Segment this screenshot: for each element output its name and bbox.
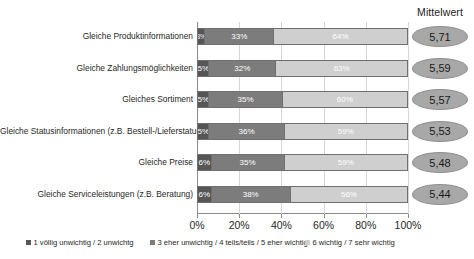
mean-value-cell: 5,57 — [412, 89, 468, 110]
stacked-bar: 3%33%64% — [197, 28, 408, 45]
x-tick-label: 40% — [259, 219, 303, 231]
mean-value-badge: 5,57 — [412, 89, 468, 110]
bar-segment-series-3: 64% — [273, 29, 407, 44]
bar-row[interactable]: 5%35%60% — [197, 91, 408, 108]
stacked-bar-chart: Mittelwert Gleiche Produktinformationen3… — [0, 0, 474, 259]
mean-value-badge: 5,48 — [412, 152, 468, 173]
bar-row[interactable]: 6%35%59% — [197, 154, 408, 171]
legend-item-3[interactable]: 6 wichtig / 7 sehr wichtig — [305, 238, 395, 247]
x-tick-label: 60% — [302, 219, 346, 231]
mean-value-badge: 5,53 — [412, 121, 468, 142]
bar-segment-series-3: 63% — [275, 61, 407, 76]
category-label: Gleiches Sortiment — [0, 91, 193, 108]
category-label: Gleiche Statusinformationen (z.B. Bestel… — [0, 123, 193, 140]
stacked-bar: 5%35%60% — [197, 91, 408, 108]
legend-item-1[interactable]: 1 völlig unwichtig / 2 unwichtg — [26, 238, 134, 247]
bar-segment-series-2: 33% — [204, 29, 273, 44]
gridline-100 — [408, 22, 409, 214]
tick-0 — [197, 214, 198, 218]
bar-segment-series-1: 5% — [198, 61, 208, 76]
bar-segment-series-2: 35% — [211, 155, 284, 170]
legend-label-3: 6 wichtig / 7 sehr wichtig — [313, 238, 395, 247]
bar-segment-series-1: 5% — [198, 92, 208, 107]
stacked-bar: 6%38%56% — [197, 186, 408, 203]
mean-value-cell: 5,44 — [412, 184, 468, 205]
category-label: Gleiche Serviceleistungen (z.B. Beratung… — [0, 186, 193, 203]
bar-segment-series-3: 59% — [284, 155, 407, 170]
bar-segment-series-1: 5% — [198, 124, 208, 139]
bar-row[interactable]: 6%38%56% — [197, 186, 408, 203]
mean-value-badge: 5,44 — [412, 184, 468, 205]
mean-column-header: Mittelwert — [406, 6, 474, 18]
bar-segment-series-1: 6% — [198, 187, 211, 202]
category-label: Gleiche Produktinformationen — [0, 28, 193, 45]
mean-value-cell: 5,59 — [412, 58, 468, 79]
stacked-bar: 5%32%63% — [197, 60, 408, 77]
x-tick-label: 100% — [386, 219, 430, 231]
legend-label-2: 3 eher unwichtig / 4 teils/teils / 5 ehe… — [158, 238, 308, 247]
bar-row[interactable]: 5%32%63% — [197, 60, 408, 77]
x-tick-label: 20% — [217, 219, 261, 231]
bar-segment-series-1: 6% — [198, 155, 211, 170]
mean-value-cell: 5,71 — [412, 26, 468, 47]
tick-100 — [408, 214, 409, 218]
legend-label-1: 1 völlig unwichtig / 2 unwichtg — [34, 238, 134, 247]
bar-segment-series-2: 32% — [208, 61, 275, 76]
bar-segment-series-2: 36% — [208, 124, 283, 139]
bar-segment-series-3: 59% — [284, 124, 407, 139]
bar-segment-series-3: 56% — [290, 187, 407, 202]
tick-20 — [239, 214, 240, 218]
category-label: Gleiche Preise — [0, 154, 193, 171]
chart-legend: 1 völlig unwichtig / 2 unwichtg 3 eher u… — [0, 238, 474, 252]
bar-row[interactable]: 5%36%59% — [197, 123, 408, 140]
bar-segment-series-3: 60% — [282, 92, 407, 107]
stacked-bar: 6%35%59% — [197, 154, 408, 171]
bar-segment-series-2: 38% — [211, 187, 290, 202]
bar-row[interactable]: 3%33%64% — [197, 28, 408, 45]
legend-item-2[interactable]: 3 eher unwichtig / 4 teils/teils / 5 ehe… — [150, 238, 308, 247]
x-axis-line — [197, 213, 409, 214]
bar-segment-series-2: 35% — [208, 92, 281, 107]
x-tick-label: 0% — [175, 219, 219, 231]
legend-swatch-series-3 — [305, 240, 310, 245]
legend-swatch-series-2 — [150, 240, 155, 245]
legend-swatch-series-1 — [26, 240, 31, 245]
tick-40 — [281, 214, 282, 218]
mean-value-cell: 5,53 — [412, 121, 468, 142]
tick-60 — [324, 214, 325, 218]
mean-value-badge: 5,71 — [412, 26, 468, 47]
stacked-bar: 5%36%59% — [197, 123, 408, 140]
mean-value-badge: 5,59 — [412, 58, 468, 79]
mean-value-cell: 5,48 — [412, 152, 468, 173]
tick-80 — [366, 214, 367, 218]
x-tick-label: 80% — [344, 219, 388, 231]
category-label: Gleiche Zahlungsmöglichkeiten — [0, 60, 193, 77]
